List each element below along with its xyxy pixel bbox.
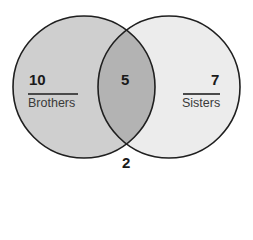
intersection-count: 5 bbox=[121, 72, 129, 87]
sisters-label: Sisters bbox=[182, 97, 220, 110]
brothers-label: Brothers bbox=[28, 97, 75, 110]
sisters-rule bbox=[183, 93, 220, 95]
brothers-only-count: 10 bbox=[29, 72, 46, 87]
sisters-only-count: 7 bbox=[211, 72, 219, 87]
outside-count: 2 bbox=[122, 155, 130, 170]
brothers-rule bbox=[28, 93, 78, 95]
